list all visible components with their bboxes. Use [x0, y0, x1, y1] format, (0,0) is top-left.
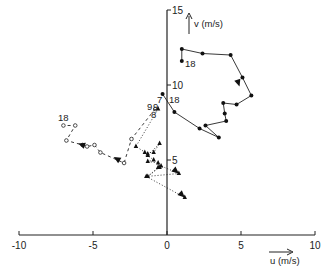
- data-point-dot: [198, 127, 202, 131]
- dashed-direction-arrow-icon: [114, 157, 122, 163]
- data-point-dot: [223, 112, 227, 116]
- data-point-dot: [235, 103, 239, 107]
- data-point-dot: [249, 94, 253, 98]
- x-tick-label: 10: [309, 240, 321, 251]
- data-point-dot: [180, 47, 184, 51]
- data-point-dot: [180, 59, 184, 63]
- dashed-open-circles-line: [63, 109, 155, 163]
- hodograph-chart: -10-5051051015v (m/s)u (m/s)7998181818: [0, 0, 330, 271]
- data-point-dot: [224, 119, 228, 123]
- data-point-open-circle: [122, 161, 126, 165]
- data-point-dot: [217, 136, 221, 140]
- data-point-dot: [172, 110, 176, 114]
- data-point-triangle: [151, 157, 155, 162]
- y-tick-label: 5: [172, 155, 178, 166]
- data-point-triangle: [156, 160, 160, 165]
- data-point-triangle: [157, 141, 161, 146]
- label-18-axis: 18: [169, 94, 180, 105]
- y-axis-label: v (m/s): [194, 18, 223, 29]
- data-point-open-circle: [65, 139, 69, 143]
- data-point-open-circle: [93, 143, 97, 147]
- data-point-open-circle: [130, 137, 134, 141]
- data-point-open-circle: [62, 124, 66, 128]
- data-point-triangle: [146, 159, 150, 164]
- data-point-dot: [201, 52, 205, 56]
- x-tick-label: 0: [164, 240, 170, 251]
- solid-direction-arrow-icon: [234, 79, 240, 87]
- label-8: 8: [151, 109, 156, 120]
- x-tick-label: -10: [12, 240, 27, 251]
- dotted-direction-arrow-2-icon: [177, 190, 184, 197]
- y-tick-label: 10: [172, 80, 184, 91]
- data-point-dot: [229, 53, 233, 57]
- data-point-dot: [221, 101, 225, 105]
- dotted-direction-arrow-icon: [171, 167, 178, 174]
- x-axis-label: u (m/s): [270, 255, 300, 266]
- label-end-18-dashed: 18: [58, 112, 69, 123]
- data-point-triangle: [134, 144, 138, 149]
- data-point-dot: [203, 124, 207, 128]
- data-point-open-circle: [73, 124, 77, 128]
- data-point-triangle: [143, 150, 147, 155]
- data-point-open-circle: [99, 151, 103, 155]
- x-tick-label: -5: [89, 240, 98, 251]
- x-tick-label: 5: [238, 240, 244, 251]
- label-end-18-solid: 18: [185, 58, 196, 69]
- y-tick-label: 15: [172, 5, 184, 16]
- dashed-direction-arrow-2-icon: [78, 143, 86, 149]
- data-point-dot: [240, 76, 244, 80]
- data-point-open-circle: [85, 145, 89, 149]
